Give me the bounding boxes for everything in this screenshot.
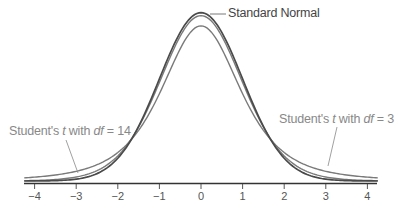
t14-df: df [93, 124, 103, 138]
t3-mid: with [335, 112, 363, 126]
t3-prefix: Student's [279, 112, 332, 126]
curve-standard-normal [24, 13, 378, 181]
x-axis-ticks [35, 184, 368, 189]
standard-normal-label-text: Standard Normal [228, 6, 320, 20]
x-tick-label: 3 [323, 190, 329, 202]
x-tick-label: 2 [281, 190, 287, 202]
curve-student-s-t-with-df-14 [24, 16, 378, 181]
t14-prefix: Student's [9, 124, 62, 138]
t3-suffix: = 3 [374, 112, 394, 126]
t3-leader-line [328, 127, 337, 166]
t14-suffix: = 14 [104, 124, 131, 138]
curve-student-s-t-with-df-3 [24, 26, 378, 178]
x-tick-label: −3 [70, 190, 83, 202]
x-tick-label: 4 [364, 190, 370, 202]
t14-mid: with [65, 124, 93, 138]
curves-group [24, 13, 378, 181]
t-df14-label: Student's t with df = 14 [9, 124, 131, 138]
t-df3-label: Student's t with df = 3 [279, 112, 394, 126]
density-chart [0, 0, 398, 214]
x-tick-label: 1 [240, 190, 246, 202]
x-tick-label: 0 [198, 190, 204, 202]
x-tick-label: −2 [112, 190, 125, 202]
x-tick-label: −4 [28, 190, 41, 202]
standard-normal-label: Standard Normal [228, 6, 320, 20]
x-tick-label: −1 [153, 190, 166, 202]
t3-df: df [363, 112, 373, 126]
t14-leader-line [66, 140, 78, 173]
